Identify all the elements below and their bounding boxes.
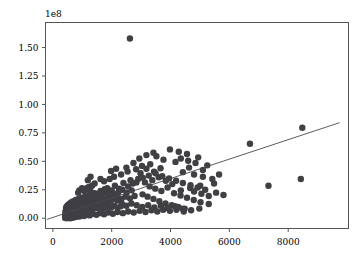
plot-svg: 020004000600080000.000.250.500.751.001.2…: [0, 0, 361, 263]
data-point: [154, 208, 160, 214]
x-tick-label: 6000: [218, 237, 241, 247]
data-point: [247, 141, 253, 147]
data-point: [186, 164, 192, 170]
data-point: [164, 184, 170, 190]
y-tick-label: 0.00: [18, 213, 38, 223]
data-point: [101, 178, 107, 184]
trend-line: [47, 123, 340, 220]
data-point: [191, 171, 197, 177]
data-point: [62, 215, 68, 221]
data-point: [143, 152, 149, 158]
data-point: [181, 208, 187, 214]
data-point: [298, 176, 304, 182]
data-point: [167, 146, 173, 152]
data-point: [213, 189, 219, 195]
data-point: [171, 190, 177, 196]
data-point: [91, 205, 97, 211]
data-point: [185, 158, 191, 164]
data-point: [111, 174, 117, 180]
data-point: [133, 179, 139, 185]
data-point: [167, 208, 173, 214]
data-point: [142, 209, 148, 215]
data-point: [173, 207, 179, 213]
data-point: [152, 185, 158, 191]
x-tick-label: 4000: [159, 237, 182, 247]
x-tick-label: 2000: [100, 237, 123, 247]
plot-canvas: 020004000600080000.000.250.500.751.001.2…: [0, 0, 361, 263]
data-point: [136, 208, 142, 214]
data-point: [127, 35, 133, 41]
data-point: [133, 202, 139, 208]
y-tick-label: 1.00: [18, 100, 38, 110]
data-point: [140, 175, 146, 181]
data-point: [120, 180, 126, 186]
data-point: [265, 183, 271, 189]
data-point: [196, 205, 202, 211]
data-point: [299, 125, 305, 131]
data-point: [220, 192, 226, 198]
data-points-group: [62, 35, 305, 221]
data-point: [131, 209, 137, 215]
data-point: [152, 170, 158, 176]
data-point: [173, 178, 179, 184]
data-point: [206, 193, 212, 199]
data-point: [200, 174, 206, 180]
data-point: [206, 201, 212, 207]
data-point: [127, 177, 133, 183]
scatter-plot-figure: 1e8 020004000600080000.000.250.500.751.0…: [0, 0, 361, 263]
y-tick-label: 0.75: [18, 128, 38, 138]
tick-label-group: 020004000600080000.000.250.500.751.001.2…: [18, 43, 299, 247]
data-point: [197, 199, 203, 205]
y-tick-label: 1.25: [18, 71, 38, 81]
data-point: [191, 188, 197, 194]
data-point: [158, 188, 164, 194]
data-point: [160, 207, 166, 213]
data-point: [130, 160, 136, 166]
data-point: [195, 154, 201, 160]
data-point: [172, 159, 178, 165]
data-point: [148, 207, 154, 213]
data-point: [113, 166, 119, 172]
data-point: [180, 180, 186, 186]
x-tick-label: 8000: [277, 237, 300, 247]
data-point: [192, 160, 198, 166]
data-point: [187, 182, 193, 188]
data-point: [178, 155, 184, 161]
data-point: [150, 196, 156, 202]
data-point: [85, 177, 91, 183]
data-point: [133, 166, 139, 172]
data-point: [123, 164, 129, 170]
data-point: [198, 191, 204, 197]
data-point: [184, 151, 190, 157]
y-tick-label: 0.25: [18, 185, 38, 195]
data-point: [103, 204, 109, 210]
data-point: [209, 176, 215, 182]
x-tick-label: 0: [50, 237, 56, 247]
data-point: [144, 193, 150, 199]
data-point: [146, 172, 152, 178]
y-tick-label: 0.50: [18, 157, 38, 167]
data-point: [87, 188, 93, 194]
data-point: [159, 173, 165, 179]
data-point: [184, 195, 190, 201]
data-point: [216, 171, 222, 177]
data-point: [118, 203, 124, 209]
data-point: [157, 165, 163, 171]
data-point: [188, 207, 194, 213]
data-point: [118, 171, 124, 177]
y-tick-label: 1.50: [18, 43, 38, 53]
data-point: [139, 163, 145, 169]
data-point: [177, 192, 183, 198]
data-point: [160, 156, 166, 162]
data-point: [136, 155, 142, 161]
data-point: [150, 150, 156, 156]
data-point: [120, 210, 126, 216]
data-point: [176, 148, 182, 154]
data-point: [191, 197, 197, 203]
